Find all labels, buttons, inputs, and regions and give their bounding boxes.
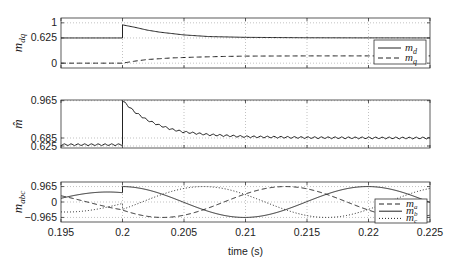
y-axis-label: mdq: [10, 33, 27, 52]
chart-figure: 00.6251mdqmdmq0.6250.6850.965m̂−0.96500.…: [0, 0, 456, 265]
x-tick-label: 0.21: [235, 226, 256, 238]
y-axis-label-main: m: [10, 204, 25, 213]
y-tick-label: 0.685: [31, 132, 57, 144]
y-axis-label-main: m̂: [10, 119, 25, 128]
x-tick-label: 0.195: [48, 226, 74, 238]
x-tick-label: 0.215: [294, 226, 320, 238]
y-axis-label-main: m: [10, 43, 25, 52]
series-line-m_d: [61, 25, 430, 38]
y-tick-label: 0: [51, 57, 57, 69]
y-tick-label: 1: [51, 16, 57, 28]
subplot-1: 00.6251mdqmdmq: [10, 16, 430, 68]
y-axis-label: m̂: [10, 119, 25, 128]
legend-box: [374, 40, 426, 64]
y-tick-label: 0.965: [31, 180, 57, 192]
subplot-3: −0.96500.9650.1950.20.2050.210.2150.220.…: [10, 180, 443, 257]
subplot-2: 0.6250.6850.965m̂: [10, 94, 430, 151]
y-tick-label: 0: [51, 196, 57, 208]
y-tick-label: 0.625: [31, 31, 57, 43]
x-tick-label: 0.2: [115, 226, 130, 238]
x-tick-label: 0.22: [358, 226, 379, 238]
y-axis-label-sub: dq: [17, 33, 27, 43]
x-tick-label: 0.225: [417, 226, 443, 238]
x-tick-label: 0.205: [171, 226, 197, 238]
y-tick-label: 0.965: [31, 94, 57, 106]
y-axis-label-sub: abc: [17, 191, 27, 204]
x-axis-label: time (s): [228, 245, 263, 257]
y-tick-label: −0.965: [25, 211, 58, 223]
y-axis-label: mabc: [10, 191, 27, 213]
